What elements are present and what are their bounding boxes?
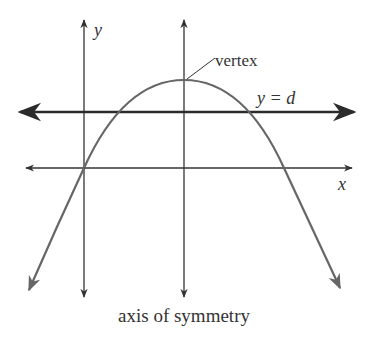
vertex-label: vertex bbox=[215, 51, 258, 70]
axis-of-symmetry-label: axis of symmetry bbox=[118, 305, 250, 326]
parabola-curve bbox=[84, 80, 184, 168]
parabola-diagram: y vertex y = d x axis of symmetry bbox=[0, 0, 368, 345]
y-axis-label: y bbox=[92, 20, 102, 40]
parabola-left-tail bbox=[29, 168, 84, 290]
vertex-leader-line bbox=[187, 58, 215, 79]
horizontal-line-label: y = d bbox=[255, 88, 296, 108]
parabola-right-tail bbox=[284, 168, 340, 288]
x-axis-label: x bbox=[337, 174, 346, 194]
